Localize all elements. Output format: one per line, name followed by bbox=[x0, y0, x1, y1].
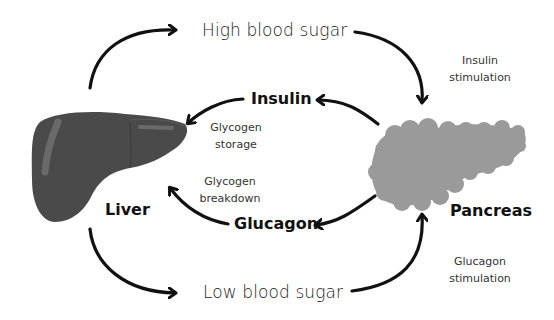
glucagon-label: Glucagon bbox=[234, 216, 318, 232]
liver-label: Liver bbox=[105, 202, 150, 218]
high-blood-sugar-label: High blood sugar bbox=[202, 22, 347, 39]
insulin-label: Insulin bbox=[251, 91, 312, 107]
arrow-low-to-pancreas bbox=[352, 215, 422, 291]
glycogen-breakdown-label: Glycogen breakdown bbox=[190, 173, 270, 207]
pancreas-illustration bbox=[368, 118, 526, 211]
insulin-stimulation-label: Insulin stimulation bbox=[440, 52, 520, 86]
glycogen-storage-label: Glycogen storage bbox=[196, 119, 276, 153]
arrow-liver-to-high bbox=[90, 30, 175, 88]
glucagon-stimulation-label: Glucagon stimulation bbox=[440, 253, 520, 287]
arrow-pancreas-to-insulin bbox=[318, 100, 378, 124]
pancreas-label: Pancreas bbox=[450, 203, 532, 219]
low-blood-sugar-label: Low blood sugar bbox=[203, 284, 343, 301]
arrow-high-to-pancreas bbox=[355, 32, 422, 102]
arrow-pancreas-to-glucagon bbox=[316, 196, 375, 225]
arrow-liver-to-low bbox=[90, 229, 175, 293]
